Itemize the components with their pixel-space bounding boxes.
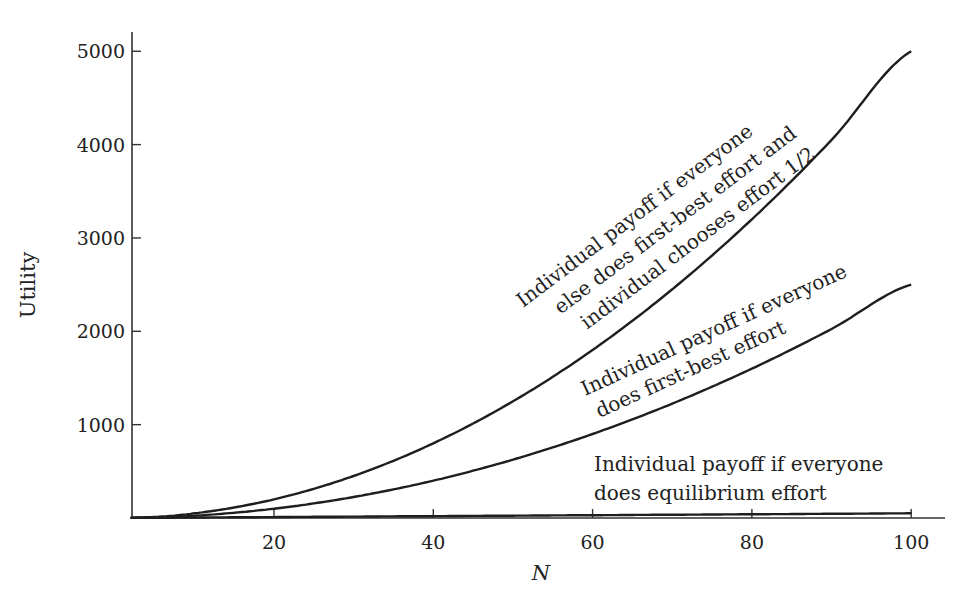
y-tick-label: 3000 [77, 227, 125, 249]
y-axis-title: Utility [16, 252, 40, 319]
chart-container: 2040608010010002000300040005000 Individu… [0, 0, 975, 605]
annotation-bottom-line-1: Individual payoff if everyone [594, 452, 883, 476]
utility-vs-n-chart: 2040608010010002000300040005000 Individu… [0, 0, 975, 605]
x-tick-label: 80 [740, 531, 764, 553]
y-tick-label: 4000 [77, 134, 125, 156]
x-tick-label: 60 [581, 531, 605, 553]
x-tick-label: 100 [893, 531, 929, 553]
y-tick-label: 2000 [77, 320, 125, 342]
y-tick-label: 1000 [77, 414, 125, 436]
annotation-bottom-line-2: does equilibrium effort [594, 481, 827, 505]
y-tick-label: 5000 [77, 40, 125, 62]
x-tick-label: 20 [262, 531, 286, 553]
annotation-middle-line-1: Individual payoff if everyone [577, 259, 850, 401]
x-axis-title: N [531, 561, 551, 585]
annotation-bottom-curve: Individual payoff if everyone does equil… [594, 452, 890, 505]
annotation-top-line-2: else does first-best effort and [549, 121, 801, 319]
x-tick-label: 40 [421, 531, 445, 553]
